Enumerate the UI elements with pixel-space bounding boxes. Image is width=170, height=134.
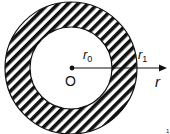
outer-radius-label-sub: 1 — [142, 54, 147, 64]
center-point — [70, 66, 75, 71]
inner-radius-label-sub: 0 — [87, 54, 92, 64]
center-label: O — [65, 73, 76, 89]
annulus-diagram: O r0 r1 r 1 — [0, 0, 170, 134]
